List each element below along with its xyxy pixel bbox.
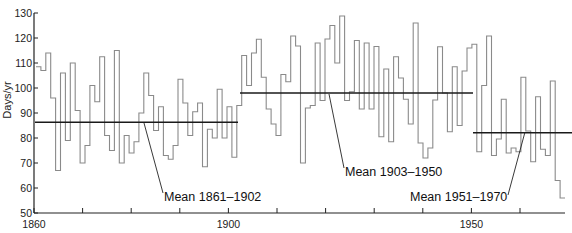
y-tick-label: 80 [20,132,32,144]
y-tick-label: 50 [20,207,32,219]
y-axis-title: Days/yr [1,81,13,119]
y-tick-label: 60 [20,182,32,194]
y-tick-label: 100 [14,82,32,94]
x-tick-label: 1950 [460,218,484,230]
step-line [36,16,565,198]
annotation-mean-1903-1950: Mean 1903–1950 [345,165,442,179]
y-tick-label: 120 [14,32,32,44]
y-tick-label: 70 [20,157,32,169]
y-axis: 5060708090100110120130 [14,7,38,219]
annotation-mean-1861-1902: Mean 1861–1902 [164,190,261,204]
annotation-leaders [144,94,525,195]
leader-mean-1951-1970 [508,132,525,195]
y-tick-label: 90 [20,107,32,119]
data-series [36,16,565,198]
x-tick-label: 1860 [22,218,46,230]
y-tick-label: 110 [15,57,32,69]
x-axis: 186019001950 [22,208,565,230]
leader-mean-1861-1902 [144,123,163,193]
leader-mean-1903-1950 [329,94,344,168]
chart: 5060708090100110120130 186019001950 Days… [0,0,572,233]
y-tick-label: 130 [14,7,32,19]
x-tick-label: 1900 [217,218,241,230]
annotation-mean-1951-1970: Mean 1951–1970 [410,190,507,204]
